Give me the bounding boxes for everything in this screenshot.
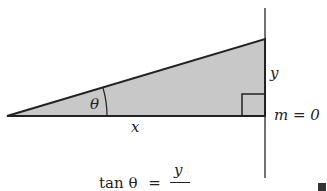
opposite-label: y <box>270 66 278 81</box>
angle-label: θ <box>90 97 99 112</box>
right-triangle <box>7 39 265 116</box>
adjacent-label: x <box>131 120 139 135</box>
equation-numerator: y <box>174 163 182 178</box>
tangent-equation: tan θ = <box>99 176 167 191</box>
triangle-diagram <box>0 0 327 191</box>
fraction-bar <box>170 182 190 183</box>
equation-lhs: tan θ <box>99 174 137 191</box>
corner-icon <box>318 183 326 191</box>
slope-label: m = 0 <box>274 108 320 123</box>
equation-equals: = <box>148 174 161 191</box>
